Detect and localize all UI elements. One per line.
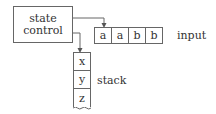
input-cell: a: [111, 27, 129, 44]
state-control-line-1: state: [29, 13, 57, 25]
stack-cell: z: [73, 88, 91, 107]
input-cell: b: [128, 27, 146, 44]
stack-cell: y: [73, 70, 91, 89]
stack-label: stack: [97, 74, 126, 87]
arrow-to-input: [73, 18, 104, 26]
input-cell: a: [94, 27, 112, 44]
stack-column: x y z: [73, 52, 91, 107]
stack-wavy-bottom: [73, 107, 91, 109]
input-label: input: [177, 29, 206, 42]
state-control-box: state control: [13, 6, 73, 43]
state-control-line-2: control: [23, 25, 63, 37]
input-cell: b: [145, 27, 163, 44]
stack-cell: x: [73, 52, 91, 71]
input-tape: a a b b: [95, 27, 163, 44]
